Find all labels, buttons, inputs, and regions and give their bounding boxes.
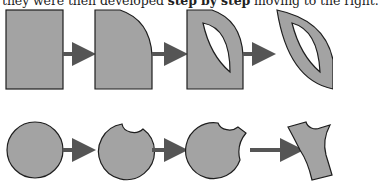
top-row xyxy=(6,10,333,89)
step3-cut-circle xyxy=(186,123,246,179)
step1-rectangle xyxy=(6,10,63,89)
bottom-row xyxy=(7,122,332,180)
step3-shape-with-hole xyxy=(187,10,243,89)
step1-circle xyxy=(7,122,63,178)
step2-notched-circle xyxy=(99,124,155,180)
step4-leaf-with-hole xyxy=(277,10,333,89)
step2-rounded-shape xyxy=(95,10,152,89)
